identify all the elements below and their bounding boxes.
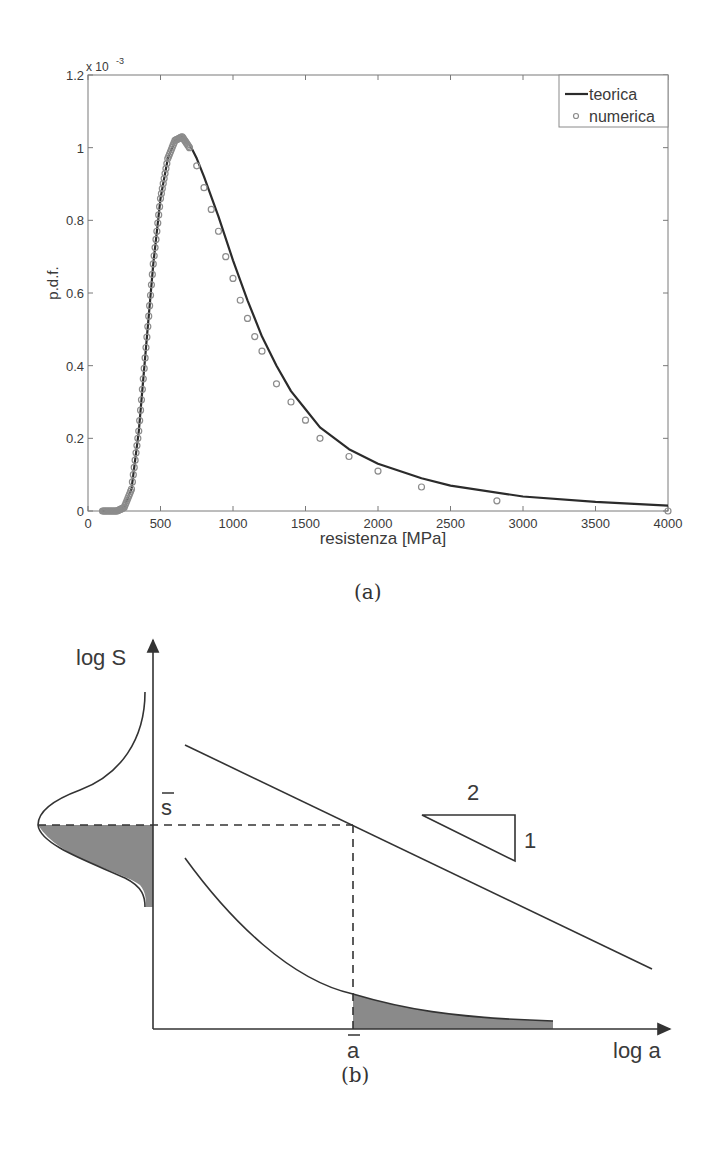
figure-b-caption: (b) xyxy=(341,1063,369,1087)
y-axis-label: p.d.f. xyxy=(44,266,61,299)
y-tick-label: 1.2 xyxy=(66,68,84,83)
y-tick-label: 0.2 xyxy=(66,431,84,446)
series-numerica-marker xyxy=(230,275,236,281)
series-numerica-marker xyxy=(494,498,500,504)
y-axis-label: log S xyxy=(76,645,126,670)
upper-limit-line xyxy=(185,745,652,969)
lower-curve xyxy=(185,858,553,1021)
pdf-chart: 0500100015002000250030003500400000.20.40… xyxy=(0,0,713,640)
y-tick-label: 0.4 xyxy=(66,359,84,374)
x-tick-label: 0 xyxy=(84,516,91,531)
series-numerica-marker xyxy=(317,435,323,441)
y-tick-label: 0.6 xyxy=(66,286,84,301)
x-tick-label: 3000 xyxy=(509,516,538,531)
legend-teorica-label: teorica xyxy=(589,86,637,103)
y-exponent-power: -3 xyxy=(116,56,124,66)
series-numerica-marker xyxy=(237,297,243,303)
y-tick-label: 0 xyxy=(77,504,84,519)
series-numerica-marker xyxy=(419,484,425,490)
figure-a-caption: (a) xyxy=(354,580,382,604)
slope-run-label: 2 xyxy=(467,780,479,805)
series-numerica-marker xyxy=(259,348,265,354)
y-tick-label: 0.8 xyxy=(66,213,84,228)
series-numerica-marker xyxy=(274,381,280,387)
series-numerica-marker xyxy=(223,254,229,260)
series-numerica-marker xyxy=(375,468,381,474)
series-teorica-line xyxy=(103,137,669,511)
crack-tail-shading xyxy=(353,994,553,1029)
x-tick-label: 1000 xyxy=(219,516,248,531)
a-bar-label: a xyxy=(347,1038,360,1063)
x-tick-label: 4000 xyxy=(654,516,683,531)
series-numerica-marker xyxy=(252,334,258,340)
y-tick-label: 1 xyxy=(77,141,84,156)
x-axis-label: resistenza [MPa] xyxy=(320,529,447,548)
x-tick-label: 500 xyxy=(150,516,172,531)
slope-triangle xyxy=(422,815,515,861)
y-exponent-label: x 10 xyxy=(86,60,109,74)
series-numerica-marker xyxy=(201,185,207,191)
x-tick-label: 1500 xyxy=(291,516,320,531)
legend-numerica-label: numerica xyxy=(589,108,655,125)
stress-distribution-curve xyxy=(38,692,145,907)
lower-tail-shading xyxy=(38,825,153,907)
x-axis-label: log a xyxy=(613,1038,661,1063)
x-tick-label: 3500 xyxy=(581,516,610,531)
series-numerica-marker xyxy=(216,228,222,234)
series-numerica-marker xyxy=(303,417,309,423)
slope-rise-label: 1 xyxy=(524,828,536,853)
series-numerica-marker xyxy=(208,206,214,212)
series-numerica-marker xyxy=(245,315,251,321)
series-numerica-marker xyxy=(346,454,352,460)
s-bar-label: s xyxy=(161,795,172,820)
legend: teoricanumerica xyxy=(559,75,668,127)
series-numerica-marker xyxy=(288,399,294,405)
